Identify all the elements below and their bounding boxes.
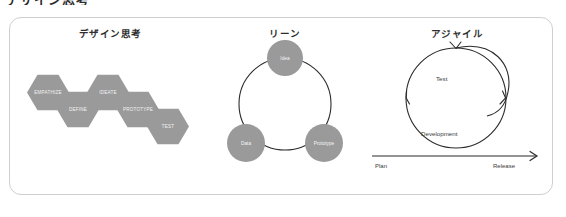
- agile-axis-label-release: Release: [493, 163, 515, 169]
- hexagon-step-label: EMPATHIZE: [34, 90, 61, 95]
- panel-agile: アジャイル Test: [360, 18, 554, 194]
- hexagon-step-label: IDEATE: [99, 90, 116, 95]
- hexagon-step-label: TEST: [162, 124, 175, 129]
- panel-design-thinking: デザイン思考 EMPATHIZE DEFINE IDEATE PROTOTYPE…: [10, 18, 210, 194]
- lean-node-prototype: Prototype: [305, 124, 343, 162]
- lean-node-data: Data: [227, 124, 265, 162]
- lean-cycle-diagram: Idea Data Prototype: [221, 40, 349, 168]
- agile-cycle-diagram: Test Development Plan Release: [368, 36, 548, 186]
- panel-title-design-thinking: デザイン思考: [10, 26, 210, 40]
- clipped-heading-text: デザイン思考: [6, 0, 90, 5]
- lean-node-label: Data: [241, 141, 251, 146]
- panel-lean: リーン Idea Data Prototype: [210, 18, 360, 194]
- agile-axis-label-plan: Plan: [375, 163, 387, 169]
- lean-node-label: Prototype: [314, 141, 335, 146]
- lean-node-label: Idea: [280, 56, 289, 61]
- panel-title-lean: リーン: [210, 26, 360, 40]
- diagram-card: デザイン思考 EMPATHIZE DEFINE IDEATE PROTOTYPE…: [9, 17, 553, 195]
- hexagon-step-label: PROTOTYPE: [123, 107, 153, 112]
- agile-label-development: Development: [421, 130, 457, 137]
- agile-cycle-arrows-icon: [368, 36, 548, 186]
- hexagon-step-label: DEFINE: [69, 107, 87, 112]
- agile-label-test: Test: [436, 75, 447, 82]
- lean-node-idea: Idea: [267, 40, 303, 76]
